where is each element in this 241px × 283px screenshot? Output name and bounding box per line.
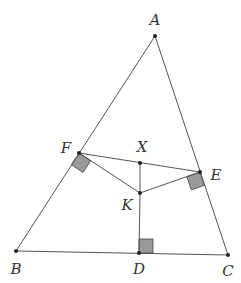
point-f <box>77 151 81 155</box>
label-c: C <box>222 262 234 280</box>
label-d: D <box>132 260 145 278</box>
label-k: K <box>120 196 133 214</box>
right-angle-marker-d <box>139 239 153 253</box>
label-x: X <box>136 138 149 156</box>
label-e: E <box>210 166 222 184</box>
point-c <box>226 253 230 257</box>
point-a <box>153 34 157 38</box>
point-b <box>14 249 18 253</box>
point-x <box>138 161 142 165</box>
label-b: B <box>9 260 21 278</box>
label-a: A <box>148 11 161 29</box>
geometry-diagram: A B C D E F X K <box>0 0 241 283</box>
side-bc <box>16 251 228 255</box>
point-e <box>198 170 202 174</box>
label-f: F <box>60 139 72 157</box>
point-d <box>137 251 141 255</box>
right-angle-marker-f <box>71 153 90 173</box>
side-ab <box>16 36 155 251</box>
point-k <box>138 191 142 195</box>
side-ca <box>155 36 228 255</box>
right-angle-marker-e <box>187 172 205 190</box>
segment-fk <box>79 153 140 193</box>
